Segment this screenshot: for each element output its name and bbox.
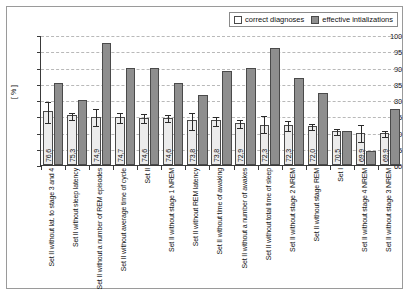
- x-axis-category-text: Set II without time of awaking: [217, 168, 225, 255]
- error-bar-cap: [309, 130, 315, 131]
- x-axis-category-label: Set I: [329, 168, 353, 290]
- legend-item-effective-intializations: effective intializations: [311, 15, 393, 24]
- error-bar: [192, 113, 193, 130]
- error-bar: [216, 117, 217, 126]
- error-bar-cap: [141, 123, 147, 124]
- error-bar-cap: [189, 113, 195, 114]
- bar-effective-intializations: [222, 71, 232, 165]
- x-axis-category-label: Set II: [136, 168, 160, 290]
- x-axis-category-label: Set II without time of awaking: [208, 168, 232, 290]
- error-bar: [168, 115, 169, 122]
- y-axis-tick: [37, 150, 41, 151]
- gridline: [41, 36, 401, 37]
- error-bar: [144, 114, 145, 122]
- bar-effective-intializations: [342, 131, 352, 165]
- error-bar-cap: [285, 131, 291, 132]
- error-bar-cap: [189, 130, 195, 131]
- error-bar-cap: [213, 126, 219, 127]
- legend-item-correct-diagnoses: correct diagnoses: [234, 15, 304, 24]
- x-axis-category-label: Set II without total time of sleep: [257, 168, 281, 290]
- bar-value-label: 74,6: [165, 149, 172, 162]
- x-axis-category-label: Set II without a number of awakes: [233, 168, 257, 290]
- bar-effective-intializations: [150, 68, 160, 166]
- error-bar-cap: [45, 102, 51, 103]
- error-bar-cap: [237, 120, 243, 121]
- gridline: [41, 52, 401, 53]
- bar-effective-intializations: [198, 95, 208, 165]
- error-bar: [48, 102, 49, 123]
- error-bar-cap: [334, 135, 340, 136]
- bar-effective-intializations: [78, 100, 88, 165]
- error-bar-cap: [358, 142, 364, 143]
- x-axis-category-label: Set II without average time of cycle: [112, 168, 136, 290]
- y-axis-tick: [37, 134, 41, 135]
- error-bar-cap: [261, 116, 267, 117]
- x-axis-category-label: Set II without stage 2 NREM: [281, 168, 305, 290]
- bar-value-label: 69,9: [357, 149, 364, 162]
- x-axis-category-text: Set II without lat. to stage 3 and 4: [48, 168, 56, 267]
- y-axis-tick: [37, 36, 41, 37]
- error-bar-cap: [358, 125, 364, 126]
- error-bar-cap: [117, 113, 123, 114]
- bar-value-label: 74,7: [116, 149, 123, 162]
- legend-swatch-gray-icon: [311, 16, 319, 24]
- bar-correct-diagnoses: 72,9: [235, 123, 245, 165]
- bar-correct-diagnoses: 73,8: [211, 120, 221, 165]
- x-axis-category-label: Set II without stage 4 NREM: [353, 168, 377, 290]
- error-bar-cap: [261, 133, 267, 134]
- bar-value-label: 72,9: [237, 149, 244, 162]
- bar-value-label: 72,3: [261, 149, 268, 162]
- bar-value-label: 73,8: [189, 149, 196, 162]
- y-axis-title: [ % ]: [10, 85, 17, 99]
- x-axis-category-text: Set II without stage 1 NREM: [169, 168, 177, 252]
- bar-effective-intializations: [318, 93, 328, 165]
- error-bar-cap: [237, 128, 243, 129]
- bar-value-label: 70,5: [333, 149, 340, 162]
- error-bar-cap: [45, 123, 51, 124]
- x-axis-category-label: Set II without REM latency: [184, 168, 208, 290]
- x-axis-category-text: Set II without a number of awakes: [241, 168, 249, 269]
- bar-correct-diagnoses: 74,6: [139, 118, 149, 165]
- x-axis-category-label: Set II without sleep latency: [64, 168, 88, 290]
- x-axis-category-text: Set II without stage 3 NREM: [385, 168, 393, 252]
- error-bar: [361, 125, 362, 142]
- error-bar-cap: [69, 120, 75, 121]
- bar-correct-diagnoses: 72,0: [308, 126, 318, 165]
- error-bar: [240, 120, 241, 128]
- bar-effective-intializations: [54, 83, 64, 165]
- bar-effective-intializations: [294, 78, 304, 165]
- error-bar-cap: [309, 124, 315, 125]
- bar-value-label: 74,6: [141, 149, 148, 162]
- chart-legend: correct diagnoses effective intializatio…: [229, 12, 398, 27]
- bar-effective-intializations: [270, 48, 280, 165]
- y-axis-tick: [37, 52, 41, 53]
- x-axis-category-text: Set II without stage 4 NREM: [361, 168, 369, 252]
- error-bar: [288, 121, 289, 130]
- plot-area: 76,675,374,974,774,674,673,873,872,972,3…: [40, 36, 401, 166]
- y-axis-tick: [37, 85, 41, 86]
- legend-label-effective-intializations: effective intializations: [322, 15, 393, 24]
- x-axis-category-text: Set II without total time of sleep: [265, 168, 273, 260]
- bar-value-label: 76,6: [44, 149, 51, 162]
- legend-swatch-white-icon: [234, 16, 242, 24]
- error-bar-cap: [93, 126, 99, 127]
- bar-value-label: 75,3: [68, 149, 75, 162]
- x-axis-category-text: Set II without stage 2 NREM: [289, 168, 297, 252]
- error-bar-cap: [117, 123, 123, 124]
- x-axis-category-text: Set II without average time of cycle: [120, 168, 128, 271]
- error-bar-cap: [165, 115, 171, 116]
- bar-effective-intializations: [102, 43, 112, 165]
- error-bar: [120, 113, 121, 123]
- error-bar-cap: [334, 129, 340, 130]
- error-bar: [264, 116, 265, 133]
- bar-correct-diagnoses: 70,5: [332, 131, 342, 165]
- gridline: [41, 69, 401, 70]
- x-axis-category-labels: Set II without lat. to stage 3 and 4Set …: [40, 168, 401, 290]
- bar-effective-intializations: [126, 68, 136, 166]
- error-bar-cap: [213, 117, 219, 118]
- error-bar-cap: [285, 121, 291, 122]
- x-axis-category-text: Set II without stage REM: [313, 168, 321, 241]
- error-bar-cap: [382, 137, 388, 138]
- error-bar-cap: [141, 114, 147, 115]
- bar-effective-intializations: [366, 151, 376, 165]
